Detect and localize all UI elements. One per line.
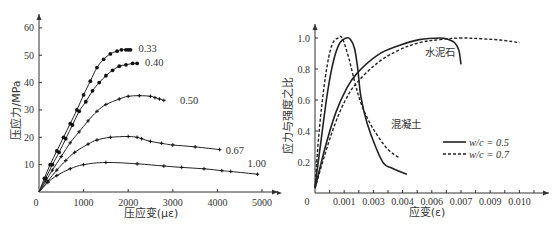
- circle-marker-icon: [104, 74, 108, 78]
- chart-canvas: 10002000300040005000102030405060 0.330.4…: [0, 0, 559, 230]
- left-y-tick-label: 40: [24, 77, 34, 88]
- plus-marker-icon: [229, 170, 233, 174]
- circle-marker-icon: [84, 100, 88, 104]
- left-y-tick-label: 30: [24, 104, 34, 115]
- plus-marker-icon: [104, 161, 108, 165]
- left-origin-label: 0: [34, 197, 39, 208]
- circle-marker-icon: [95, 66, 99, 70]
- plus-marker-icon: [126, 135, 130, 139]
- plus-marker-icon: [82, 163, 86, 167]
- left-x-tick-label: 4000: [207, 197, 227, 208]
- circle-marker-icon: [77, 109, 81, 113]
- left-series-1.00: 1.00: [39, 158, 266, 192]
- right-y-tick-label: 0.4: [298, 126, 311, 137]
- right-y-axis-arrow-icon: [313, 24, 318, 30]
- circle-marker-icon: [64, 137, 68, 141]
- curve-label-wc-0.33: 0.33: [138, 43, 156, 54]
- circle-marker-icon: [71, 123, 75, 127]
- plus-marker-icon: [256, 172, 260, 176]
- right-x-tick-label: 0.010: [508, 196, 531, 207]
- legend-dashed-label: w/c = 0.7: [469, 149, 510, 160]
- plus-marker-icon: [149, 140, 153, 144]
- curve-label-wc-0.50: 0.50: [180, 95, 198, 106]
- plus-marker-icon: [153, 96, 157, 100]
- plus-marker-icon: [138, 94, 142, 98]
- plus-marker-icon: [135, 162, 139, 166]
- left-curve-line: [39, 96, 164, 192]
- circle-marker-icon: [115, 49, 119, 53]
- right-y-tick-label: 0.6: [298, 95, 311, 106]
- circle-marker-icon: [82, 93, 86, 97]
- left-series-0.40: 0.40: [39, 57, 163, 192]
- plus-marker-icon: [218, 148, 222, 152]
- right-origin-label: 0: [305, 196, 310, 207]
- stray-arrow-icon: [277, 191, 282, 195]
- left-x-tick-label: 1000: [74, 197, 94, 208]
- plus-marker-icon: [160, 142, 164, 146]
- left-x-tick-label: 5000: [252, 197, 272, 208]
- circle-marker-icon: [117, 64, 121, 68]
- circle-marker-icon: [97, 81, 101, 85]
- plus-marker-icon: [202, 167, 206, 171]
- right-y-axis-title: 应力与强度之比: [281, 77, 295, 154]
- right-x-tick-label: 0.009: [479, 196, 502, 207]
- right-y-tick-label: 0.2: [298, 157, 311, 168]
- left-y-tick-label: 60: [24, 22, 34, 33]
- plus-marker-icon: [95, 138, 99, 142]
- plus-marker-icon: [117, 97, 121, 101]
- left-series-0.50: 0.50: [39, 94, 198, 192]
- circle-marker-icon: [129, 48, 133, 52]
- left-y-axis-arrow-icon: [37, 14, 42, 20]
- right-curve-cement-paste-solid: [315, 38, 461, 188]
- circle-marker-icon: [111, 68, 115, 72]
- right-y-tick-label: 1.0: [298, 33, 311, 44]
- curve-label-wc-1.00: 1.00: [248, 158, 266, 169]
- right-curve-cement-paste-dashed: [315, 38, 519, 188]
- right-x-tick-label: 0.003: [362, 196, 385, 207]
- right-x-axis-arrow-icon: [543, 191, 549, 196]
- annotation-concrete: 混凝土: [391, 118, 421, 130]
- right-chart-stress-ratio: 0.0010.0030.0040.0060.0070.0090.0100.20.…: [277, 24, 549, 219]
- plus-marker-icon: [140, 137, 144, 141]
- plus-marker-icon: [109, 136, 113, 140]
- left-y-axis-title: 压应力/MPa: [9, 80, 23, 139]
- plus-marker-icon: [171, 143, 175, 147]
- circle-marker-icon: [135, 62, 139, 66]
- plus-marker-icon: [158, 97, 162, 101]
- curve-label-wc-0.40: 0.40: [145, 57, 163, 68]
- right-series-group: [315, 36, 519, 188]
- left-curve-line: [39, 162, 258, 192]
- left-chart-stress-strain: 10002000300040005000102030405060 0.330.4…: [9, 14, 278, 220]
- circle-marker-icon: [120, 48, 124, 52]
- circle-marker-icon: [57, 150, 61, 154]
- plus-marker-icon: [126, 94, 130, 98]
- left-x-axis-title: 压应变(με): [124, 206, 179, 220]
- circle-marker-icon: [124, 63, 128, 67]
- right-y-tick-label: 0.8: [298, 64, 311, 75]
- plus-marker-icon: [162, 164, 166, 168]
- circle-marker-icon: [88, 79, 92, 83]
- circle-marker-icon: [102, 57, 106, 61]
- circle-marker-icon: [108, 52, 112, 56]
- plus-marker-icon: [180, 166, 184, 170]
- legend-solid-label: w/c = 0.5: [469, 137, 509, 148]
- left-series-group: 0.330.400.500.671.00: [39, 43, 266, 192]
- plus-marker-icon: [193, 145, 197, 149]
- plus-marker-icon: [220, 169, 224, 173]
- circle-marker-icon: [91, 89, 95, 93]
- left-curve-line: [39, 63, 137, 192]
- right-x-axis-title: 应变(ε): [409, 205, 446, 219]
- legend: w/c = 0.5 w/c = 0.7: [443, 137, 510, 160]
- left-y-tick-label: 50: [24, 50, 34, 61]
- circle-marker-icon: [131, 62, 135, 66]
- circle-marker-icon: [50, 163, 54, 167]
- plus-marker-icon: [68, 167, 72, 171]
- annotation-cement-paste: 水泥石: [425, 46, 455, 58]
- right-x-tick-label: 0.007: [450, 196, 473, 207]
- left-y-tick-label: 20: [24, 132, 34, 143]
- plus-marker-icon: [135, 136, 139, 140]
- right-x-tick-label: 0.001: [333, 196, 356, 207]
- left-curve-line: [39, 137, 220, 193]
- plus-marker-icon: [149, 94, 153, 98]
- left-y-tick-label: 10: [24, 159, 34, 170]
